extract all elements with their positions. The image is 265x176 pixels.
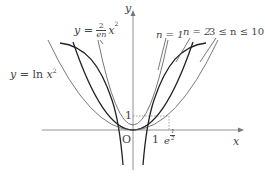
label-parabola: y = 2enx2 — [74, 22, 118, 39]
label-n2: n = 2 — [183, 27, 211, 37]
origin-label: O — [122, 134, 131, 145]
x-tick-e-half: e12 — [164, 135, 175, 147]
label-n1: n = 1 — [156, 30, 184, 40]
leader-n2 — [176, 38, 190, 62]
leader-parabola — [100, 40, 103, 44]
parabola-den: en — [96, 31, 106, 39]
y-tick-1: 1 — [125, 110, 132, 121]
x-axis-arrow-icon — [238, 128, 244, 133]
x-tick-1: 1 — [152, 134, 159, 145]
label-ln-x2: y = ln x2 — [10, 69, 57, 80]
e-exp-den: 2 — [170, 136, 176, 142]
ln-exp: 2 — [53, 67, 57, 74]
parabola-exp: 2 — [115, 20, 119, 27]
y-axis-arrow-icon — [131, 10, 136, 16]
parabola-var: x — [108, 24, 114, 37]
label-n3-10: 3 ≤ n ≤ 10 — [209, 27, 264, 37]
x-axis-label: x — [233, 136, 239, 147]
y-axis-label: y — [125, 3, 131, 14]
leader-n3-10 — [200, 38, 216, 62]
ln-var: x — [47, 68, 53, 81]
